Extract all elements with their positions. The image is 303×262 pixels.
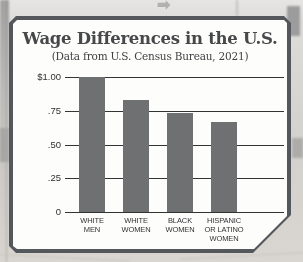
bar-4 bbox=[211, 122, 237, 212]
y-tick-label: .25 bbox=[13, 172, 61, 183]
bar-2 bbox=[123, 100, 149, 212]
chart-card: Wage Differences in the U.S. (Data from … bbox=[9, 16, 291, 253]
arrow-right-icon: ➡ bbox=[157, 0, 170, 14]
y-tick-label: .50 bbox=[13, 139, 61, 150]
y-tick-label: .75 bbox=[13, 105, 61, 116]
background-wall-line bbox=[236, 0, 238, 16]
bar-1 bbox=[79, 77, 105, 212]
chart-subtitle: (Data from U.S. Census Bureau, 2021) bbox=[13, 50, 287, 62]
bar-3 bbox=[167, 113, 193, 212]
background-door-handle-right bbox=[292, 138, 303, 158]
x-axis-line bbox=[65, 212, 284, 213]
x-category-label: HISPANIC OR LATINO WOMEN bbox=[191, 216, 257, 243]
chart-card-inner: Wage Differences in the U.S. (Data from … bbox=[13, 20, 287, 249]
chart-title: Wage Differences in the U.S. bbox=[13, 20, 287, 48]
photo-background: ➡ Wage Differences in the U.S. (Data fro… bbox=[0, 0, 303, 262]
y-tick-label: 0 bbox=[13, 206, 61, 217]
background-door-handle-left bbox=[0, 128, 9, 162]
y-tick-label: $1.00 bbox=[13, 71, 61, 82]
background-floor-tile-line bbox=[0, 253, 130, 261]
